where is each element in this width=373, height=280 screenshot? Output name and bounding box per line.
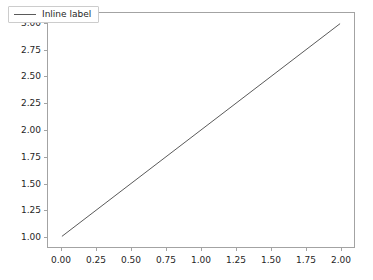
legend-entry[interactable]: Inline label	[14, 10, 91, 19]
data-line-canvas	[48, 13, 354, 247]
x-tick-mark	[166, 248, 167, 251]
x-tick-mark	[96, 248, 97, 251]
x-tick-mark	[201, 248, 202, 251]
x-tick-label: 0.75	[156, 256, 176, 265]
y-tick-label: 2.25	[8, 99, 41, 108]
x-tick-label: 1.25	[226, 256, 246, 265]
y-tick-label: 1.25	[8, 206, 41, 215]
y-tick-label: 1.75	[8, 152, 41, 161]
x-tick-mark	[131, 248, 132, 251]
y-tick-label: 2.00	[8, 126, 41, 135]
y-tick-label: 1.50	[8, 179, 41, 188]
x-tick-mark	[271, 248, 272, 251]
y-tick-label: 2.75	[8, 45, 41, 54]
legend-line-swatch-icon	[14, 14, 36, 15]
x-tick-label: 0.25	[86, 256, 106, 265]
x-tick-label: 1.00	[191, 256, 211, 265]
y-tick-label: 2.50	[8, 72, 41, 81]
x-tick-mark	[236, 248, 237, 251]
plot-axes-area	[47, 12, 355, 248]
chart-legend[interactable]: Inline label	[8, 6, 99, 23]
x-tick-label: 2.00	[331, 256, 351, 265]
data-series-line	[62, 24, 340, 237]
x-tick-mark	[341, 248, 342, 251]
legend-label: Inline label	[42, 10, 91, 19]
y-tick-label: 1.00	[8, 233, 41, 242]
x-tick-mark	[61, 248, 62, 251]
matplotlib-figure: 1.001.251.501.752.002.252.502.753.00 0.0…	[0, 0, 373, 280]
x-tick-label: 0.00	[51, 256, 71, 265]
x-tick-label: 0.50	[121, 256, 141, 265]
x-tick-label: 1.50	[261, 256, 281, 265]
x-tick-mark	[306, 248, 307, 251]
x-tick-label: 1.75	[296, 256, 316, 265]
